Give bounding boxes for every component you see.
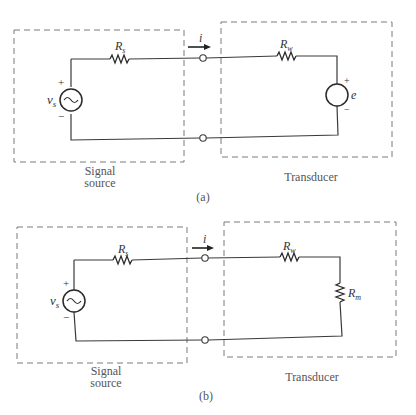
wire-a-top-mid [129, 58, 200, 59]
caption-a: (a) [196, 190, 209, 204]
wire-b-top-mid [132, 258, 202, 260]
rw-label-b: Rw [282, 239, 296, 255]
wire-b-trans-top-right [299, 257, 340, 283]
vs-label-b: vs [50, 293, 60, 310]
resistor-rm-b-icon [336, 283, 344, 302]
transducer-label-a: Transducer [284, 170, 338, 184]
terminal-top-a [200, 55, 206, 61]
wire-a-src-bottom [71, 114, 200, 140]
terminal-bottom-b [202, 337, 208, 343]
rw-label-a: Rw [279, 37, 293, 53]
circuit-diagrams: + − vs + − e Rs Rw i Signal source Trans… [0, 0, 416, 415]
rs-label-b: Rs [117, 242, 128, 258]
signal-source-label-a-line2: source [84, 176, 115, 190]
transducer-label-b: Transducer [285, 370, 339, 384]
vs-minus-b: − [63, 311, 69, 323]
emf-source-a-icon [326, 84, 348, 106]
vs-minus-a: − [58, 110, 64, 122]
rm-label-b: Rm [347, 286, 361, 302]
current-label-b: i [203, 232, 206, 246]
wire-b-trans-top-left [208, 257, 280, 258]
e-minus-a: − [344, 104, 350, 115]
resistor-rs-b-icon [113, 256, 132, 264]
resistor-rw-a-icon [277, 52, 296, 60]
figure-a: + − vs + − e Rs Rw i Signal source Trans… [14, 22, 392, 204]
vs-plus-b: + [63, 277, 69, 289]
resistor-rs-a-icon [110, 55, 129, 63]
terminal-top-b [202, 255, 208, 261]
arrowhead-b-icon [207, 245, 214, 251]
vs-plus-a: + [58, 76, 64, 88]
wire-a-trans-bottom [206, 106, 338, 138]
wire-b-src-bottom [74, 312, 202, 341]
caption-b: (b) [199, 389, 213, 403]
signal-source-box-a [14, 30, 184, 162]
current-label-a: i [199, 31, 202, 45]
e-label-a: e [351, 88, 357, 102]
wire-a-trans-top-right [296, 56, 337, 84]
e-plus-a: + [344, 75, 350, 86]
wire-a-trans-top-left [206, 56, 277, 58]
figure-b: + − vs Rs Rw Rm i Signal source Transduc… [17, 222, 396, 403]
vs-label-a: vs [47, 92, 57, 109]
signal-source-label-b-line2: source [90, 376, 121, 390]
arrowhead-a-icon [204, 44, 211, 50]
terminal-bottom-a [200, 135, 206, 141]
rs-label-a: Rs [114, 39, 125, 55]
wire-b-trans-bottom [208, 302, 342, 340]
signal-source-box-b [17, 227, 187, 363]
